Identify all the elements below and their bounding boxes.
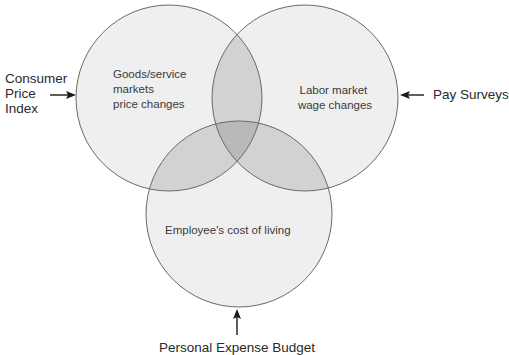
right-arrow-icon — [50, 91, 76, 99]
cpi-label: Consumer Price Index — [5, 71, 71, 116]
cpi-label-line2: Price — [5, 86, 36, 101]
labor-label-line1: Labor market — [300, 84, 369, 96]
pay-surveys-label-line1: Pay Surveys — [433, 87, 509, 102]
cost-label-line1: Employee's cost of living — [165, 224, 291, 236]
budget-label: Personal Expense Budget — [159, 340, 315, 355]
up-arrow-icon — [233, 309, 241, 335]
goods-label-line2: markets — [113, 83, 154, 95]
venn-diagram: Goods/service markets price changes Labo… — [0, 0, 509, 355]
labor-label-line2: wage changes — [297, 99, 372, 111]
pay-surveys-label: Pay Surveys — [433, 87, 509, 102]
goods-label-line1: Goods/service — [113, 68, 187, 80]
left-arrow-icon — [400, 91, 424, 99]
cpi-label-line3: Index — [5, 101, 38, 116]
cost-label: Employee's cost of living — [165, 224, 291, 236]
goods-label-line3: price changes — [113, 98, 185, 110]
budget-label-line1: Personal Expense Budget — [159, 340, 315, 355]
cpi-label-line1: Consumer — [5, 71, 68, 86]
